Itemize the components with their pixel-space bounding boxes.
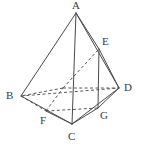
vertex-label-e: E: [102, 36, 109, 47]
geometry-figure: ABCDEFG: [0, 0, 141, 148]
edge-fc: [46, 111, 72, 124]
vertex-label-g: G: [100, 110, 108, 121]
edge-cg: [72, 108, 98, 124]
edge-ac: [72, 13, 76, 124]
vertex-label-d: D: [124, 82, 132, 93]
vertex-label-b: B: [6, 90, 13, 101]
vertex-label-c: C: [68, 131, 75, 142]
hidden-edge-bd: [21, 88, 119, 96]
edge-ad: [76, 13, 119, 88]
solid-edge-group: [21, 13, 119, 124]
edge-cd: [72, 88, 119, 124]
hidden-edge-hb: [21, 88, 63, 96]
hidden-edge-fh: [46, 88, 63, 111]
edge-ed: [99, 49, 119, 88]
vertex-label-a: A: [72, 0, 80, 11]
figure-canvas: [0, 0, 141, 148]
hidden-edge-he: [63, 49, 99, 88]
edge-gd: [98, 88, 119, 108]
edge-ae: [76, 13, 99, 49]
edge-eg: [98, 49, 99, 108]
vertex-label-f: F: [40, 115, 46, 126]
